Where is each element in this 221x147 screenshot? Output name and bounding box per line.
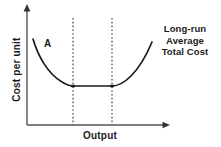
y-axis-label: Cost per unit xyxy=(11,34,22,106)
lratc-label-line-2: Average xyxy=(152,35,218,47)
lratc-figure: Cost per unit Output A Long-run Average … xyxy=(0,0,221,147)
y-axis xyxy=(24,4,31,125)
lratc-label-line-3: Total Cost xyxy=(152,46,218,58)
x-axis xyxy=(27,122,170,128)
lratc-label-line-1: Long-run xyxy=(152,23,218,35)
curve-annotation-a: A xyxy=(44,38,51,49)
x-axis-label: Output xyxy=(60,130,140,141)
lratc-curve-label: Long-run Average Total Cost xyxy=(152,23,218,58)
